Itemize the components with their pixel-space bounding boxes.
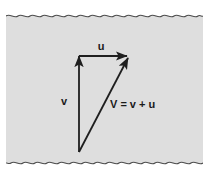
vector-u-label: u — [98, 40, 105, 52]
vector-sum-label: V = v + u — [110, 98, 155, 110]
vector-v-label: v — [61, 95, 68, 107]
vector-addition-diagram: u v V = v + u — [6, 8, 203, 171]
scanned-page-area: u v V = v + u — [6, 8, 203, 171]
screenshot-root: u v V = v + u — [0, 0, 209, 177]
